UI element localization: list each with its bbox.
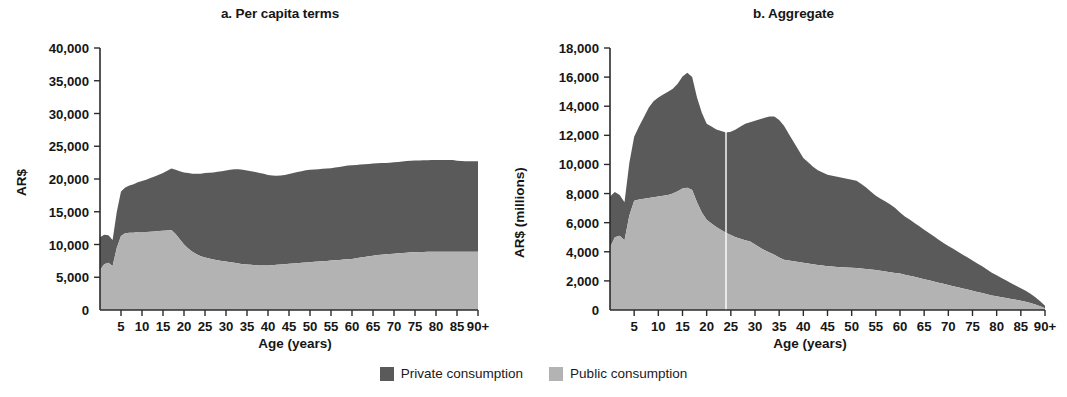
x-tick-label: 50 (844, 319, 859, 334)
panel-b-x-axis-title: Age (years) (600, 336, 1020, 351)
y-tick-label: 6,000 (566, 216, 599, 231)
x-tick-label: 45 (282, 319, 297, 334)
chart-legend: Private consumption Public consumption (0, 366, 1067, 381)
x-tick-label: 20 (177, 319, 192, 334)
panel-a-y-axis-title: AR$ (14, 169, 29, 196)
legend-item-public: Public consumption (549, 366, 687, 381)
legend-item-private: Private consumption (380, 366, 523, 381)
panel-per-capita: a. Per capita terms 05,00010,00015,00020… (0, 0, 500, 360)
y-tick-label: 0 (82, 303, 89, 318)
legend-swatch-private-icon (380, 367, 394, 381)
x-tick-label: 30 (748, 319, 763, 334)
y-tick-label: 16,000 (559, 70, 599, 85)
x-tick-label: 80 (429, 319, 444, 334)
x-tick-label: 90+ (467, 319, 490, 334)
x-tick-label: 5 (630, 319, 637, 334)
panel-a-x-axis-title: Age (years) (100, 336, 490, 351)
x-tick-label: 40 (796, 319, 811, 334)
y-tick-label: 12,000 (559, 128, 599, 143)
y-tick-label: 40,000 (49, 41, 89, 56)
figure-container: a. Per capita terms 05,00010,00015,00020… (0, 0, 1067, 397)
x-tick-label: 10 (135, 319, 150, 334)
x-tick-label: 25 (723, 319, 738, 334)
x-tick-label: 45 (820, 319, 835, 334)
x-tick-label: 70 (387, 319, 402, 334)
x-tick-label: 85 (1013, 319, 1028, 334)
y-tick-label: 8,000 (566, 187, 599, 202)
x-tick-label: 65 (366, 319, 381, 334)
x-tick-label: 25 (198, 319, 213, 334)
x-tick-label: 55 (324, 319, 339, 334)
y-tick-label: 15,000 (49, 205, 89, 220)
panel-b-y-axis-title: AR$ (millions) (512, 167, 527, 258)
x-tick-label: 10 (651, 319, 666, 334)
y-tick-label: 4,000 (566, 245, 599, 260)
x-tick-label: 70 (941, 319, 956, 334)
panel-aggregate: b. Aggregate 02,0004,0006,0008,00010,000… (500, 0, 1067, 360)
y-tick-label: 20,000 (49, 172, 89, 187)
y-tick-label: 30,000 (49, 107, 89, 122)
x-tick-label: 35 (240, 319, 255, 334)
y-tick-label: 2,000 (566, 274, 599, 289)
x-tick-label: 15 (156, 319, 171, 334)
x-tick-label: 75 (408, 319, 423, 334)
x-tick-label: 90+ (1034, 319, 1057, 334)
panel-a-plot: 05,00010,00015,00020,00025,00030,00035,0… (0, 0, 500, 360)
legend-label-public: Public consumption (570, 366, 687, 381)
y-tick-label: 10,000 (559, 157, 599, 172)
y-tick-label: 18,000 (559, 41, 599, 56)
x-tick-label: 35 (772, 319, 787, 334)
x-tick-label: 50 (303, 319, 318, 334)
x-tick-label: 65 (917, 319, 932, 334)
x-tick-label: 60 (345, 319, 360, 334)
x-tick-label: 30 (219, 319, 234, 334)
x-tick-label: 5 (117, 319, 124, 334)
x-tick-label: 15 (675, 319, 690, 334)
x-tick-label: 20 (699, 319, 714, 334)
x-tick-label: 85 (450, 319, 465, 334)
y-tick-label: 14,000 (559, 99, 599, 114)
y-tick-label: 25,000 (49, 139, 89, 154)
x-tick-label: 80 (989, 319, 1004, 334)
legend-swatch-public-icon (549, 367, 563, 381)
y-tick-label: 0 (592, 303, 599, 318)
x-tick-label: 75 (965, 319, 980, 334)
y-tick-label: 10,000 (49, 238, 89, 253)
x-tick-label: 60 (893, 319, 908, 334)
y-tick-label: 5,000 (56, 270, 89, 285)
x-tick-label: 40 (261, 319, 276, 334)
panel-b-plot: 02,0004,0006,0008,00010,00012,00014,0001… (500, 0, 1067, 360)
x-tick-label: 55 (868, 319, 883, 334)
y-tick-label: 35,000 (49, 74, 89, 89)
legend-label-private: Private consumption (401, 366, 523, 381)
